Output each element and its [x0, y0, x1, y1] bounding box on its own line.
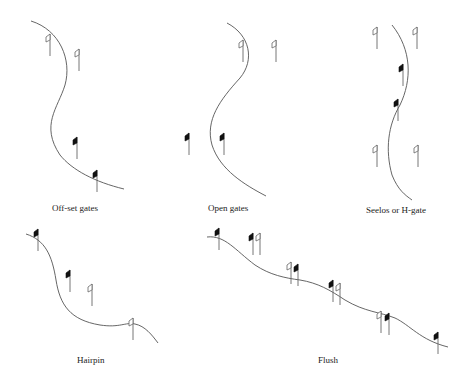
solid-flag-icon: [185, 133, 189, 155]
open-flag-icon: [88, 284, 92, 306]
solid-flag-icon: [73, 137, 77, 159]
caption-open-gates: Open gates: [208, 203, 248, 213]
open-flag-icon: [46, 34, 50, 56]
open-flag-icon: [414, 145, 418, 167]
open-flag-icon: [239, 40, 243, 62]
caption-flush: Flush: [318, 355, 338, 365]
open-flag-icon: [75, 49, 79, 71]
course-line: [388, 25, 412, 200]
panel-open-gates: [185, 23, 276, 196]
course-line: [207, 237, 448, 347]
solid-flag-icon: [220, 133, 224, 155]
open-flag-icon: [129, 318, 133, 340]
open-flag-icon: [256, 233, 260, 255]
solid-flag-icon: [294, 264, 298, 286]
open-flag-icon: [272, 40, 276, 62]
caption-offset-gates: Off-set gates: [52, 203, 98, 213]
solid-flag-icon: [399, 64, 403, 86]
panel-seelos-h-gate: [373, 25, 418, 200]
panel-hairpin: [26, 229, 158, 343]
solid-flag-icon: [385, 313, 389, 335]
caption-hairpin: Hairpin: [77, 355, 105, 365]
open-flag-icon: [373, 27, 377, 49]
open-flag-icon: [377, 311, 381, 333]
slalom-gates-figure: Off-set gates Open gates Seelos or H-gat…: [0, 0, 468, 386]
panel-flush: [207, 228, 448, 354]
solid-flag-icon: [66, 270, 70, 292]
open-flag-icon: [373, 145, 377, 167]
solid-flag-icon: [93, 170, 97, 192]
open-flag-icon: [336, 283, 340, 305]
course-line: [31, 21, 124, 189]
panel-offset-gates: [31, 21, 124, 192]
open-flag-icon: [413, 27, 417, 49]
course-line: [210, 23, 266, 196]
solid-flag-icon: [215, 228, 219, 250]
caption-seelos-h-gate: Seelos or H-gate: [366, 205, 426, 215]
solid-flag-icon: [249, 233, 253, 255]
open-flag-icon: [287, 262, 291, 284]
